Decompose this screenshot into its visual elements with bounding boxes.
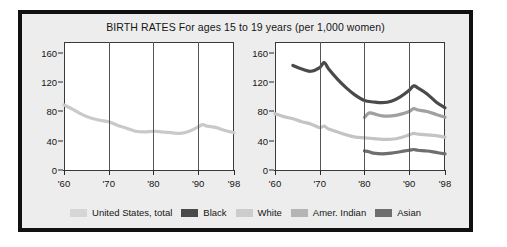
y-axis-tick-label: 40 xyxy=(46,135,57,146)
left-chart-panel: 04080120160'60'70'80'90'98 xyxy=(64,42,234,170)
x-axis-tick-label: '60 xyxy=(58,178,70,189)
chart-figure: BIRTH RATES For ages 15 to 19 years (per… xyxy=(18,10,473,232)
x-axis-tick-mark xyxy=(198,170,199,175)
x-axis-tick-mark xyxy=(153,170,154,175)
left-x-axis xyxy=(63,170,235,171)
legend-label: United States, total xyxy=(92,207,172,218)
y-axis-tick-label: 120 xyxy=(41,77,57,88)
y-axis-tick-mark xyxy=(58,170,63,171)
y-axis-tick-label: 40 xyxy=(257,135,268,146)
y-axis-tick-label: 0 xyxy=(263,165,268,176)
y-axis-tick-mark xyxy=(58,140,63,141)
y-axis-tick-mark xyxy=(269,111,274,112)
x-axis-tick-mark xyxy=(275,170,276,175)
y-axis-tick-label: 160 xyxy=(252,47,268,58)
legend-item: White xyxy=(236,207,282,218)
legend-label: White xyxy=(258,207,282,218)
chart-title: BIRTH RATES For ages 15 to 19 years (per… xyxy=(22,21,469,33)
x-axis-tick-mark xyxy=(364,170,365,175)
legend-swatch xyxy=(236,209,253,217)
y-axis-tick-mark xyxy=(58,52,63,53)
right-series-lines xyxy=(275,42,445,170)
y-axis-tick-label: 120 xyxy=(252,77,268,88)
legend-swatch xyxy=(181,209,198,217)
y-axis-tick-mark xyxy=(269,52,274,53)
legend-label: Asian xyxy=(397,207,421,218)
x-axis-tick-label: '90 xyxy=(192,178,204,189)
grid-line xyxy=(198,42,199,170)
y-axis-tick-mark xyxy=(269,82,274,83)
y-axis-tick-label: 0 xyxy=(52,165,57,176)
grid-line xyxy=(153,42,154,170)
x-axis-tick-mark xyxy=(234,170,235,175)
chart-legend: United States, totalBlackWhiteAmer. Indi… xyxy=(22,207,469,218)
x-axis-tick-label: '70 xyxy=(314,178,326,189)
x-axis-tick-mark xyxy=(320,170,321,175)
y-axis-tick-mark xyxy=(269,170,274,171)
y-axis-tick-label: 80 xyxy=(257,106,268,117)
y-axis-tick-mark xyxy=(58,82,63,83)
series-line xyxy=(275,114,445,140)
grid-line xyxy=(109,42,110,170)
x-axis-tick-label: '60 xyxy=(269,178,281,189)
series-line xyxy=(293,62,445,107)
series-line xyxy=(64,105,234,134)
series-line xyxy=(364,109,445,118)
grid-line xyxy=(409,42,410,170)
legend-label: Amer. Indian xyxy=(313,207,366,218)
grid-line xyxy=(320,42,321,170)
x-axis-tick-mark xyxy=(109,170,110,175)
legend-item: United States, total xyxy=(70,207,172,218)
series-line xyxy=(364,150,445,154)
x-axis-tick-label: '70 xyxy=(103,178,115,189)
legend-item: Amer. Indian xyxy=(291,207,366,218)
legend-swatch xyxy=(70,209,87,217)
x-axis-tick-mark xyxy=(64,170,65,175)
legend-item: Black xyxy=(181,207,226,218)
right-chart-panel: 04080120160'60'70'80'90'98 xyxy=(275,42,445,170)
y-axis-tick-mark xyxy=(58,111,63,112)
y-axis-tick-label: 160 xyxy=(41,47,57,58)
x-axis-tick-label: '80 xyxy=(147,178,159,189)
x-axis-tick-mark xyxy=(445,170,446,175)
y-axis-tick-mark xyxy=(269,140,274,141)
x-axis-tick-label: '90 xyxy=(403,178,415,189)
y-axis-tick-label: 80 xyxy=(46,106,57,117)
legend-item: Asian xyxy=(375,207,421,218)
x-axis-tick-label: '98 xyxy=(228,178,240,189)
right-x-axis xyxy=(274,170,446,171)
legend-label: Black xyxy=(203,207,226,218)
x-axis-tick-label: '98 xyxy=(439,178,451,189)
x-axis-tick-label: '80 xyxy=(358,178,370,189)
legend-swatch xyxy=(375,209,392,217)
grid-line xyxy=(364,42,365,170)
left-series-lines xyxy=(64,42,234,170)
legend-swatch xyxy=(291,209,308,217)
x-axis-tick-mark xyxy=(409,170,410,175)
chart-panel-background: BIRTH RATES For ages 15 to 19 years (per… xyxy=(22,14,469,228)
